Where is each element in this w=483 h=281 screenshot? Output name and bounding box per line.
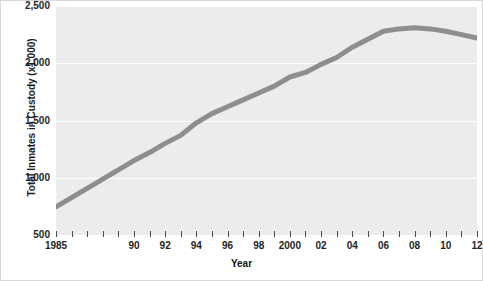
x-axis-tick-labels: 198590929496982000020406081012 [0, 240, 483, 254]
x-tick [196, 231, 197, 237]
x-tick-label: 1985 [45, 240, 67, 251]
x-tick [337, 231, 338, 237]
x-tick [134, 231, 135, 237]
x-tick [118, 231, 119, 237]
x-tick [461, 231, 462, 237]
x-tick [259, 231, 260, 237]
x-tick [368, 231, 369, 237]
x-tick [477, 231, 478, 237]
x-tick [383, 231, 384, 237]
y-axis-title: Total Inmates in Custody (x1,000) [26, 23, 37, 213]
x-tick-label: 02 [316, 240, 327, 251]
x-tick [321, 231, 322, 237]
x-tick [446, 231, 447, 237]
x-tick [228, 231, 229, 237]
x-tick-label: 10 [440, 240, 451, 251]
x-tick [150, 231, 151, 237]
x-tick [72, 231, 73, 237]
x-tick-label: 94 [191, 240, 202, 251]
x-tick-label: 08 [409, 240, 420, 251]
x-tick-label: 2000 [279, 240, 301, 251]
chart-figure: 5001,0001,5002,0002,500 Total Inmates in… [0, 0, 483, 281]
x-tick [430, 231, 431, 237]
x-tick [56, 231, 57, 237]
x-tick [290, 231, 291, 237]
x-tick [181, 231, 182, 237]
x-tick [87, 231, 88, 237]
x-tick-label: 92 [160, 240, 171, 251]
x-tick-label: 90 [128, 240, 139, 251]
x-tick-label: 06 [378, 240, 389, 251]
x-axis-title: Year [0, 258, 483, 269]
x-tick [305, 231, 306, 237]
x-tick [415, 231, 416, 237]
x-tick [399, 231, 400, 237]
x-tick-label: 12 [471, 240, 482, 251]
x-tick-label: 96 [222, 240, 233, 251]
x-tick [103, 231, 104, 237]
x-tick-label: 04 [347, 240, 358, 251]
x-tick [165, 231, 166, 237]
x-tick [352, 231, 353, 237]
x-axis-ticks [56, 231, 477, 239]
x-tick [212, 231, 213, 237]
y-tick-label: 2,500 [25, 1, 50, 11]
x-tick [274, 231, 275, 237]
top-margin [0, 0, 483, 6]
data-line-total-inmates [56, 28, 477, 207]
line-series-layer [56, 6, 477, 235]
x-tick [243, 231, 244, 237]
y-tick-label: 500 [33, 230, 50, 240]
x-tick-label: 98 [253, 240, 264, 251]
